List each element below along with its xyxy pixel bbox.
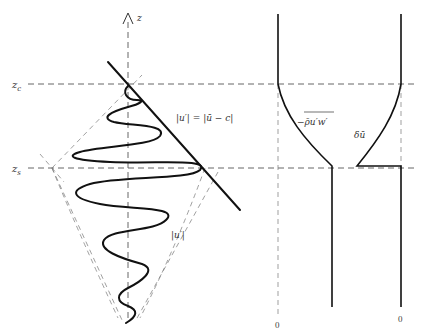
z-axis-label: z (136, 13, 142, 23)
amplitude-label: |u′| (171, 230, 185, 241)
lower-envelope-right (136, 172, 218, 320)
critical-level-label: zc (11, 79, 21, 93)
momentum-flux-label: −ρ̄u′w′ (297, 117, 327, 127)
wave-critical-level-diagram: z zc zs |u′| = |ū − c| |u′| −ρ̄ (0, 0, 425, 333)
left-panel: z zc zs |u′| = |ū − c| |u′| (11, 13, 418, 323)
meanflow-zero-label: 0 (398, 314, 403, 324)
right-panel: −ρ̄u′w′ δū 0 0 (275, 14, 403, 330)
mean-flow-change-label: δū (354, 130, 365, 140)
mean-flow-change-profile (357, 14, 401, 307)
upper-envelope-left (52, 75, 142, 168)
momentum-flux-profile (278, 14, 332, 307)
flux-zero-label: 0 (275, 320, 280, 330)
amplitude-envelope-right (140, 168, 205, 318)
source-level-label: zs (11, 163, 21, 177)
amplitude-envelope-left (52, 168, 118, 318)
lower-envelope-left (52, 168, 122, 320)
envelope-equality-label: |u′| = |ū − c| (176, 113, 233, 124)
